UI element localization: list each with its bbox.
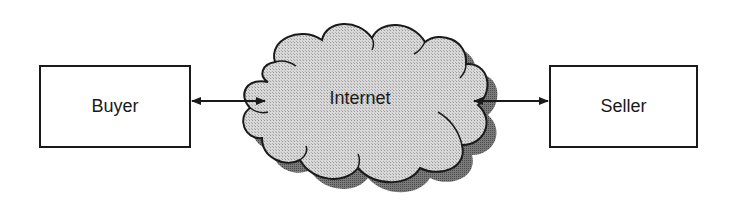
- buyer-label: Buyer: [91, 96, 138, 117]
- seller-node: Seller: [549, 65, 698, 148]
- buyer-node: Buyer: [39, 65, 191, 148]
- internet-label: Internet: [300, 88, 420, 109]
- seller-label: Seller: [600, 96, 646, 117]
